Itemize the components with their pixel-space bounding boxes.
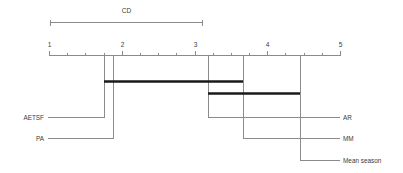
rank-axis-tick-labels: 12345 — [48, 41, 343, 48]
clique-crossbars — [104, 82, 300, 94]
method-label-mean-season: Mean season — [343, 157, 382, 164]
axis-tick-label-1: 1 — [48, 41, 52, 48]
method-label-ar: AR — [343, 114, 352, 121]
method-connector-aetsf — [48, 56, 105, 118]
method-connector-mm — [244, 56, 341, 139]
axis-tick-label-4: 4 — [266, 41, 270, 48]
method-label-mm: MM — [343, 135, 354, 142]
axis-tick-label-5: 5 — [339, 41, 343, 48]
rank-axis-ticks — [50, 51, 341, 56]
method-connectors — [48, 56, 340, 161]
critical-difference-diagram: CD 12345 AETSFPAARMMMean season — [0, 0, 403, 173]
method-label-pa: PA — [36, 135, 45, 142]
method-connector-pa — [48, 56, 114, 139]
cd-diagram-canvas: CD 12345 AETSFPAARMMMean season — [0, 0, 403, 173]
rank-axis: 12345 — [48, 41, 343, 56]
method-label-aetsf: AETSF — [23, 114, 44, 121]
cd-label: CD — [122, 7, 132, 14]
axis-tick-label-3: 3 — [194, 41, 198, 48]
axis-tick-label-2: 2 — [121, 41, 125, 48]
method-connector-mean-season — [301, 56, 341, 161]
method-connector-ar — [209, 56, 341, 118]
cd-reference-bar: CD — [51, 7, 203, 26]
